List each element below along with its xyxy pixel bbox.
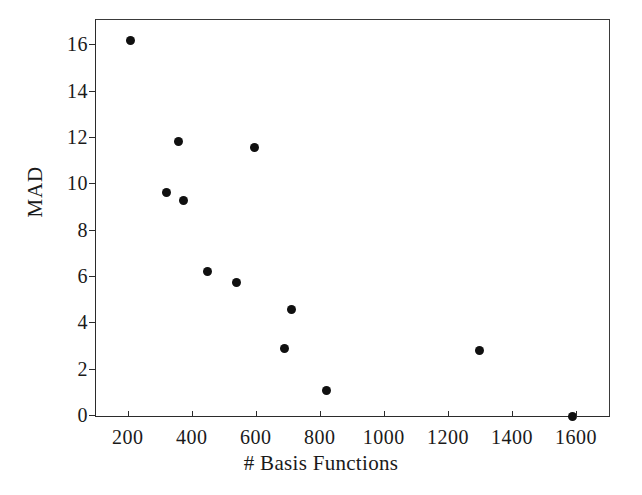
data-point (162, 188, 171, 197)
x-tick-label: 800 (304, 426, 336, 449)
y-tick-label: 6 (78, 265, 89, 288)
y-tick-mark (89, 276, 95, 277)
x-tick-label: 1600 (555, 426, 597, 449)
y-tick-mark (89, 322, 95, 323)
data-point (280, 344, 289, 353)
data-point (250, 143, 259, 152)
y-tick-label: 8 (78, 218, 89, 241)
data-point (203, 267, 212, 276)
x-tick-label: 400 (176, 426, 208, 449)
x-tick-mark (192, 411, 193, 417)
y-tick-label: 10 (67, 172, 88, 195)
y-axis-label: MAD (23, 172, 48, 218)
y-tick-label: 16 (67, 33, 88, 56)
x-tick-label: 1000 (363, 426, 405, 449)
y-tick-mark (89, 415, 95, 416)
data-point (126, 36, 135, 45)
data-point (322, 386, 331, 395)
x-tick-mark (128, 411, 129, 417)
y-tick-mark (89, 183, 95, 184)
y-tick-label: 4 (78, 311, 89, 334)
plot-area (95, 19, 610, 417)
x-tick-label: 1200 (427, 426, 469, 449)
x-tick-label: 200 (112, 426, 144, 449)
x-tick-mark (448, 411, 449, 417)
x-tick-mark (320, 411, 321, 417)
y-tick-mark (89, 369, 95, 370)
x-tick-mark (576, 411, 577, 417)
x-tick-mark (512, 411, 513, 417)
y-tick-label: 14 (67, 79, 88, 102)
x-tick-mark (384, 411, 385, 417)
x-tick-mark (256, 411, 257, 417)
data-point (179, 196, 188, 205)
y-tick-mark (89, 91, 95, 92)
y-tick-label: 0 (78, 404, 89, 427)
x-tick-label: 1400 (491, 426, 533, 449)
x-axis-label: # Basis Functions (0, 451, 642, 476)
data-point (232, 278, 241, 287)
data-point (287, 305, 296, 314)
scatter-plot-figure: 0246810121416 20040060080010001200140016… (0, 0, 642, 495)
x-tick-label: 600 (240, 426, 272, 449)
y-tick-mark (89, 137, 95, 138)
y-tick-label: 12 (67, 126, 88, 149)
data-point (475, 346, 484, 355)
y-tick-label: 2 (78, 357, 89, 380)
y-tick-mark (89, 44, 95, 45)
y-tick-mark (89, 230, 95, 231)
data-point (174, 137, 183, 146)
